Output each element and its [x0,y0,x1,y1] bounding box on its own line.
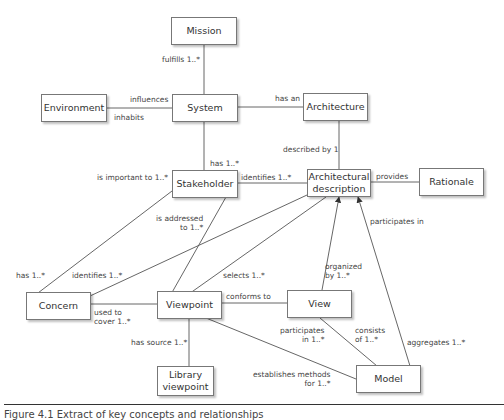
label-line: establishes methods [253,370,330,379]
node-system: System [172,94,238,122]
label-influences: influences [130,95,168,104]
label-is-important-to: is important to 1..* [97,173,168,182]
label-is-addressed-to: is addressed to 1..* [156,214,203,232]
node-architecture: Architecture [303,93,368,121]
label-line: in 1..* [302,335,325,344]
node-label: Concern [39,300,78,312]
label-line: is addressed [156,214,203,223]
label-conforms-to: conforms to [226,292,271,301]
label-line: used to [94,308,122,317]
caption-divider [4,404,504,405]
label-line: to 1..* [180,223,203,232]
label-consists-of: consists of 1..* [355,326,385,344]
label-aggregates: aggregates 1..* [407,338,465,347]
label-participates-in: participates in [370,217,424,226]
label-line: organized [325,262,362,271]
node-mission: Mission [171,17,237,45]
node-library-viewpoint: Library viewpoint [157,366,214,396]
label-selects: selects 1..* [223,271,265,280]
label-line: for 1..* [304,379,330,388]
label-establishes-methods: establishes methods for 1..* [253,370,330,388]
node-view: View [287,290,352,318]
label-view-participates-in: participates in 1..* [280,326,325,344]
label-organized-by: organized by 1..* [325,262,362,280]
node-label: Stakeholder [177,178,234,190]
node-label: Environment [44,102,105,114]
node-label: Library viewpoint [158,369,213,393]
label-inhabits: inhabits [114,113,144,122]
label-fulfills: fulfills 1..* [162,55,200,64]
node-model: Model [356,365,421,393]
node-architectural-description: Architectural description [307,169,371,197]
figure-caption: Figure 4.1 Extract of key concepts and r… [4,409,264,420]
node-label: Viewpoint [166,299,213,311]
node-label: System [187,102,222,114]
node-viewpoint: Viewpoint [157,291,222,319]
node-rationale: Rationale [419,168,484,196]
label-line: by 1..* [325,271,350,280]
label-has-concern: has 1..* [16,271,45,280]
label-has-stakeholder: has 1..* [210,159,239,168]
label-has-source: has source 1..* [131,338,187,347]
node-stakeholder: Stakeholder [172,170,238,198]
label-line: of 1..* [355,335,378,344]
label-identifies-stakeholder: identifies 1..* [241,173,291,182]
label-line: participates [280,326,325,335]
node-environment: Environment [41,94,107,122]
label-has-an: has an [275,94,300,103]
node-label: Model [374,373,403,385]
node-concern: Concern [26,292,91,320]
label-described-by: described by 1 [283,145,338,154]
node-label: Architectural description [308,171,370,195]
node-label: Architecture [306,101,364,113]
node-label: Mission [186,25,221,37]
label-line: cover 1..* [94,317,131,326]
label-used-to-cover: used to cover 1..* [94,308,131,326]
node-label: Rationale [429,176,474,188]
label-line: consists [355,326,385,335]
label-provides: provides [376,172,408,181]
node-label: View [308,298,331,310]
label-identifies-concern: identifies 1..* [72,271,122,280]
